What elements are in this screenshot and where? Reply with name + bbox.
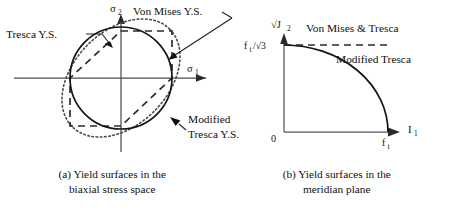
von-mises-label: Von Mises Y.S. [133, 5, 203, 17]
sqrtj2-axis-label: √J [271, 19, 281, 30]
sigma1-axis-label: σ [187, 63, 193, 74]
von-mises-tresca-label: Von Mises & Tresca [306, 22, 399, 34]
sigma2-axis-label: σ [110, 3, 116, 14]
i1-axis-arrowhead [388, 128, 400, 137]
tresca-leader-arrowhead [104, 41, 113, 48]
von-mises-leader-line [172, 18, 232, 57]
caption-panel-a: (a) Yield surfaces in the biaxial stress… [0, 163, 225, 213]
caption-b-line1: (b) Yield surfaces in the [283, 168, 391, 180]
ft-tick-label-sub: t [388, 142, 391, 151]
caption-a-line1: (a) Yield surfaces in the [59, 168, 167, 180]
modified-tresca-leader-line [179, 124, 186, 130]
sqrtj2-axis-label-sub: 2 [287, 24, 291, 33]
modified-tresca-label: Modified Tresca [336, 53, 411, 65]
modified-tresca-leader-arrowhead [170, 117, 180, 126]
sigma2-axis-label-sub: 2 [118, 8, 122, 17]
ft-over-sqrt3-label: f [244, 40, 248, 51]
i1-axis-label-sub: 1 [414, 129, 418, 138]
ft-over-sqrt3-label-rest: /√3 [253, 40, 266, 51]
panel-meridian-plane: Von Mises & Tresca Modified Tresca √J 2 … [232, 0, 449, 165]
sqrtj2-axis-arrowhead [280, 33, 288, 44]
panel-biaxial-stress-space: Tresca Y.S. Von Mises Y.S. Modified Tres… [0, 0, 240, 165]
sigma1-axis-label-sub: 1 [195, 68, 199, 77]
i1-axis-label: I [408, 124, 412, 135]
caption-b-line2: meridian plane [225, 182, 449, 197]
caption-a-line2: biaxial stress space [0, 182, 225, 197]
ft-tick-label: f [382, 137, 386, 148]
figure-captions: (a) Yield surfaces in the biaxial stress… [0, 163, 449, 213]
origin-label: 0 [271, 133, 276, 144]
von-mises-leader-tail [222, 12, 232, 18]
tresca-label: Tresca Y.S. [6, 28, 57, 40]
modified-tresca-label-line1: Modified [188, 113, 231, 125]
caption-panel-b: (b) Yield surfaces in the meridian plane [225, 163, 449, 213]
yield-surfaces-figure: Tresca Y.S. Von Mises Y.S. Modified Tres… [0, 0, 449, 213]
